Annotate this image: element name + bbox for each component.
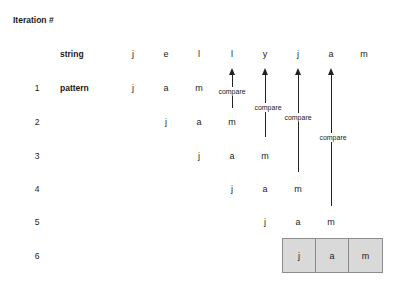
string-char: j <box>123 49 143 59</box>
pattern-row-label: pattern <box>60 83 89 93</box>
pattern-char: j <box>189 151 209 161</box>
compare-label: compare <box>283 113 312 122</box>
pattern-char: m <box>222 117 242 127</box>
match-cell: a <box>316 239 349 272</box>
string-char: e <box>156 49 176 59</box>
pattern-char: j <box>222 184 242 194</box>
pattern-char: j <box>123 83 143 93</box>
match-cell: j <box>283 239 316 272</box>
compare-label: compare <box>217 87 246 96</box>
compare-arrow-line <box>298 74 299 172</box>
iteration-number: 4 <box>31 184 43 194</box>
pattern-char: a <box>255 184 275 194</box>
string-char: a <box>321 49 341 59</box>
string-char: y <box>255 49 275 59</box>
match-cell: m <box>349 239 382 272</box>
string-char: j <box>288 49 308 59</box>
compare-label: compare <box>253 103 282 112</box>
compare-label: compare <box>318 133 347 142</box>
iteration-number: 1 <box>31 83 43 93</box>
string-char: l <box>189 49 209 59</box>
pattern-char: a <box>156 83 176 93</box>
pattern-char: j <box>255 217 275 227</box>
string-row-label: string <box>60 49 84 59</box>
iteration-number: 5 <box>31 217 43 227</box>
diagram-title: Iteration # <box>13 15 54 25</box>
iteration-number: 6 <box>31 251 43 261</box>
pattern-char: a <box>288 217 308 227</box>
pattern-char: m <box>321 217 341 227</box>
iteration-number: 2 <box>31 117 43 127</box>
pattern-char: m <box>288 184 308 194</box>
string-char: l <box>222 49 242 59</box>
pattern-char: j <box>156 117 176 127</box>
pattern-char: a <box>189 117 209 127</box>
pattern-char: m <box>255 151 275 161</box>
string-char: m <box>354 49 374 59</box>
pattern-char: a <box>222 151 242 161</box>
pattern-char: m <box>189 83 209 93</box>
iteration-number: 3 <box>31 151 43 161</box>
match-box: j a m <box>282 238 383 273</box>
